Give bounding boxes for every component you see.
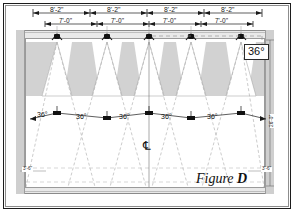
angle-label-4: 36° <box>161 113 172 120</box>
dim-8ft2-1: 8'-2" <box>50 7 64 14</box>
angle-dimension-chain <box>30 106 266 121</box>
dim-8ft2-2: 8'-2" <box>107 7 121 14</box>
dim-bottom-left-offset: 3'-6" <box>22 167 33 172</box>
angle-label-3: 36° <box>119 113 130 120</box>
figure-label: Figure D <box>196 172 247 186</box>
beam-angle-callout: 36° <box>244 44 269 60</box>
angle-label-1: 36° <box>37 111 48 118</box>
figure-label-prefix: Figure <box>196 171 234 186</box>
figure-d-lighting-plan: 8'-2" 8'-2" 8'-2" 8'-2" 7'-0" 7'-0" 7'-0… <box>0 0 294 212</box>
dim-8ft2-4: 8'-2" <box>221 7 235 14</box>
angle-label-2: 36° <box>76 113 87 120</box>
dim-right-vertical: 26'-0" <box>270 114 275 128</box>
dim-8ft2-3: 8'-2" <box>164 7 178 14</box>
centerline-symbol: ℄ <box>143 140 151 152</box>
dim-7ft0-2: 7'-0" <box>111 18 124 25</box>
dim-7ft0-1: 7'-0" <box>59 18 72 25</box>
plan-geometry <box>0 0 294 212</box>
dim-7ft0-4: 7'-0" <box>215 18 228 25</box>
dim-7ft0-3: 7'-0" <box>163 18 176 25</box>
figure-label-id: D <box>237 171 247 186</box>
dim-bottom-right-offset: 3'-6" <box>261 167 272 172</box>
angle-label-5: 36° <box>207 113 218 120</box>
